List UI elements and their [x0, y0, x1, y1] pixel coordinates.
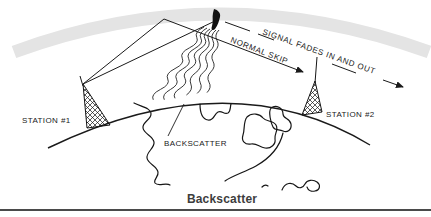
figure-caption: Backscatter [187, 192, 257, 206]
signal-fades-dash [225, 22, 250, 31]
signal-fades-arrowhead-segment [383, 80, 403, 87]
station2-label: STATION #2 [326, 110, 375, 119]
station2-mast [302, 81, 322, 115]
bottom-rule [0, 209, 431, 211]
station1-mast [83, 84, 110, 128]
coastline-island [242, 114, 276, 148]
backscatter-diagram: NORMAL SKIP SIGNAL FADES IN AND OUT BACK… [0, 0, 431, 217]
backscatter-wave-line [153, 27, 204, 100]
backscatter-leader-line [168, 104, 184, 136]
backscatter-label: BACKSCATTER [164, 139, 227, 148]
coastline-south-squiggle [282, 180, 319, 191]
backscatter-wave-line [174, 29, 210, 98]
backscatter-wave-line [186, 29, 213, 95]
station1-label: STATION #1 [22, 116, 71, 125]
ionosphere-band [14, 14, 429, 52]
backscatter-figure: NORMAL SKIP SIGNAL FADES IN AND OUT BACK… [0, 0, 431, 217]
coastline-inlet [200, 104, 231, 120]
backscatter-waves [153, 27, 219, 100]
coastline-small-mark [262, 185, 268, 187]
station2-tower [302, 57, 322, 115]
coastline-east-sweep [225, 133, 283, 181]
station2-antenna-whip [315, 57, 317, 83]
